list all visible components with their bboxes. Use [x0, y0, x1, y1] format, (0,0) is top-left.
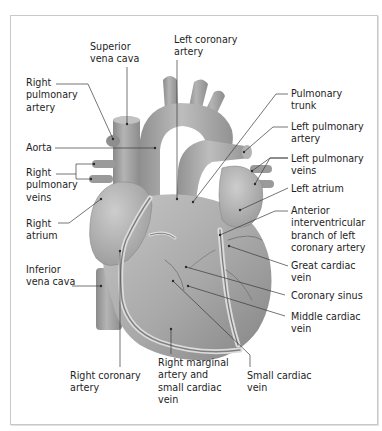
- label-left-atrium: Left atrium: [291, 183, 344, 195]
- leader-dot-small-cardiac-vein: [172, 280, 174, 282]
- leader-dot-anterior-interventricular-branch: [219, 234, 221, 236]
- label-right-pulmonary-veins: Right pulmonary veins: [26, 167, 78, 204]
- label-right-atrium: Right atrium: [26, 218, 58, 243]
- leader-dot-pulmonary-trunk: [192, 201, 194, 203]
- label-right-marginal-artery: Right marginal artery and small cardiac …: [158, 357, 229, 406]
- label-left-pulmonary-artery: Left pulmonary artery: [291, 121, 364, 146]
- leader-dot-inferior-vena-cava: [100, 285, 102, 287]
- label-left-coronary-artery: Left coronary artery: [174, 34, 237, 59]
- leader-dot-superior-vena-cava: [126, 123, 128, 125]
- label-left-pulmonary-veins: Left pulmonary veins: [291, 153, 364, 178]
- leader-dot-right-coronary-artery: [119, 250, 121, 252]
- label-superior-vena-cava: Superior vena cava: [90, 41, 139, 66]
- leader-dot-left-pulmonary-veins-b: [254, 183, 256, 185]
- leader-dot-coronary-sinus: [185, 266, 187, 268]
- leader-dot-right-atrium: [100, 198, 102, 200]
- leader-dot-left-coronary-artery: [176, 198, 178, 200]
- leader-line-right-pulmonary-veins-b: [76, 174, 91, 179]
- superior-vena-cava-shape: [113, 116, 140, 190]
- leader-dot-right-pulmonary-veins-a: [93, 163, 95, 165]
- label-pulmonary-trunk: Pulmonary trunk: [291, 88, 342, 113]
- leader-dot-right-pulmonary-veins-b: [90, 178, 92, 180]
- label-great-cardiac-vein: Great cardiac vein: [291, 260, 356, 285]
- leader-dot-right-marginal-artery: [170, 328, 172, 330]
- leader-dot-middle-cardiac-vein: [187, 285, 189, 287]
- label-aorta: Aorta: [26, 142, 52, 154]
- leader-dot-left-pulmonary-veins-a: [251, 170, 253, 172]
- label-middle-cardiac-vein: Middle cardiac vein: [291, 311, 361, 336]
- leader-dot-left-pulmonary-artery: [243, 151, 245, 153]
- left-atrium-shape: [219, 166, 263, 228]
- label-coronary-sinus: Coronary sinus: [291, 290, 363, 302]
- label-right-coronary-artery: Right coronary artery: [70, 370, 141, 395]
- leader-dot-right-pulmonary-artery: [112, 138, 114, 140]
- label-inferior-vena-cava: Inferior vena cava: [26, 264, 75, 289]
- label-right-pulmonary-artery: Right pulmonary artery: [26, 77, 78, 114]
- leader-dot-left-atrium: [239, 209, 241, 211]
- label-anterior-interventricular-branch: Anterior interventricular branch of left…: [291, 205, 366, 254]
- label-small-cardiac-vein: Small cardiac vein: [247, 370, 312, 395]
- leader-dot-great-cardiac-vein: [228, 245, 230, 247]
- leader-dot-aorta: [154, 147, 156, 149]
